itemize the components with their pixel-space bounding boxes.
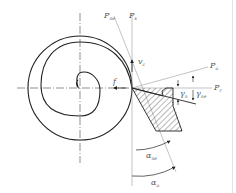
- po-plane-line: [132, 67, 208, 88]
- ps-label: Ps: [128, 11, 137, 21]
- pr-label: Pr: [213, 83, 222, 93]
- tool-angle-diagram: Pne Ps vc f Po Pr γn γne αne αo: [0, 0, 236, 193]
- pne-label: Pne: [103, 11, 115, 21]
- gamma-ne-label: γne: [196, 89, 207, 99]
- vc-label: vc: [138, 57, 146, 67]
- alpha-o-label: αo: [151, 178, 159, 188]
- po-label: Po: [209, 61, 218, 71]
- alpha-ne-label: αne: [146, 151, 157, 161]
- feed-label: f: [112, 77, 118, 86]
- alpha-ne-arc: [136, 141, 170, 150]
- alpha-o-arc: [132, 167, 175, 176]
- gamma-n-label: γn: [180, 89, 188, 99]
- page-border: [232, 0, 233, 193]
